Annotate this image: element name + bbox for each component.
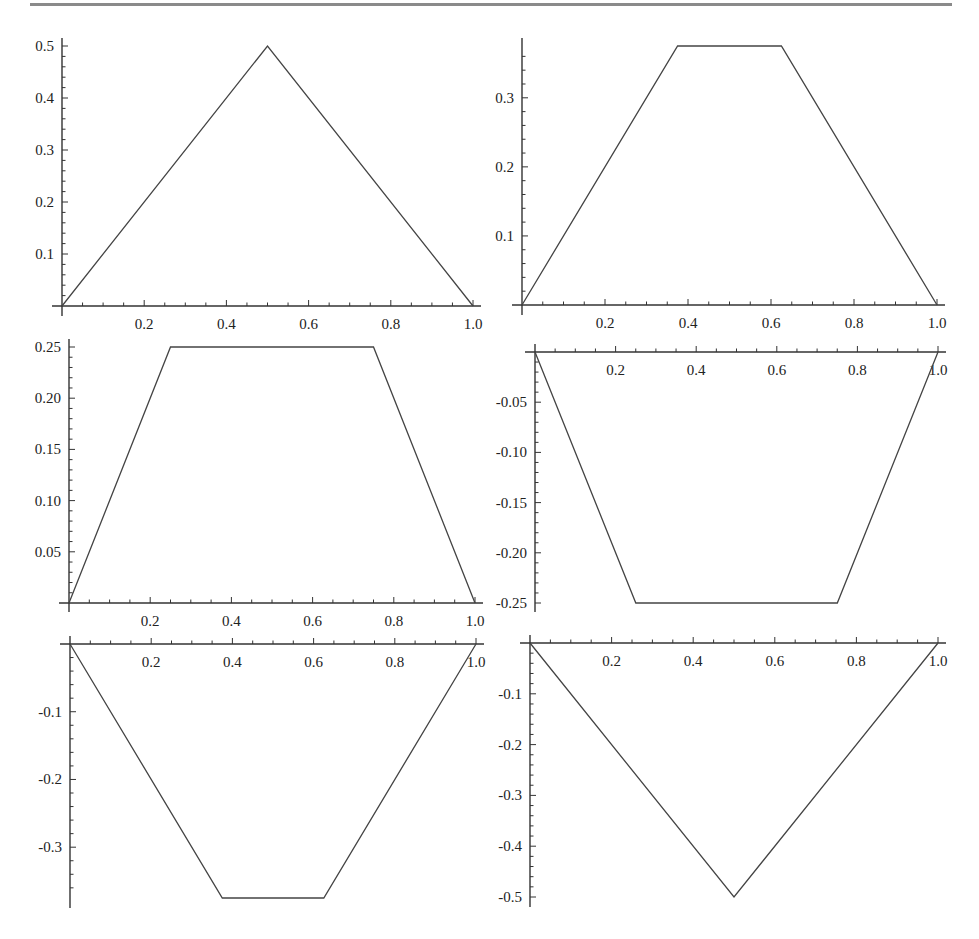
y-tick-label: -0.5 — [498, 889, 522, 905]
y-tick-label: 0.10 — [35, 493, 61, 509]
x-tick-label: 1.0 — [928, 315, 947, 331]
y-tick-label: -0.05 — [496, 394, 527, 410]
y-tick-label: 0.2 — [495, 159, 514, 175]
x-tick-label: 0.4 — [223, 654, 242, 670]
y-tick-label: -0.20 — [496, 545, 527, 561]
y-tick-label: -0.2 — [498, 737, 522, 753]
x-tick-label: 1.0 — [467, 654, 486, 670]
data-line — [70, 644, 476, 898]
data-line — [530, 643, 938, 897]
x-tick-label: 0.8 — [845, 315, 864, 331]
y-tick-label: 0.25 — [35, 339, 61, 355]
x-tick-label: 0.2 — [596, 315, 615, 331]
x-tick-label: 0.6 — [299, 316, 318, 332]
x-tick-label: 0.6 — [765, 653, 784, 669]
plot-middle-right: 0.20.40.60.81.0-0.05-0.10-0.15-0.20-0.25 — [496, 344, 948, 612]
plot-bottom-right: 0.20.40.60.81.0-0.1-0.2-0.3-0.4-0.5 — [498, 635, 947, 907]
x-tick-label: 1.0 — [929, 653, 948, 669]
y-tick-label: 0.2 — [35, 194, 54, 210]
y-tick-label: 0.4 — [35, 90, 54, 106]
x-tick-label: 1.0 — [466, 613, 485, 629]
plot-bottom-left: 0.20.40.60.81.0-0.1-0.2-0.3 — [38, 636, 485, 908]
x-tick-label: 0.2 — [142, 654, 161, 670]
y-tick-label: -0.15 — [496, 495, 527, 511]
x-tick-label: 0.8 — [848, 362, 867, 378]
x-tick-label: 0.2 — [602, 653, 621, 669]
x-tick-label: 0.4 — [217, 316, 236, 332]
plot-middle-left: 0.20.40.60.81.00.050.100.150.200.25 — [35, 339, 485, 629]
x-tick-label: 0.2 — [606, 362, 625, 378]
y-tick-label: 0.05 — [35, 544, 61, 560]
plot-top-left: 0.20.40.60.81.00.10.20.30.40.5 — [35, 38, 482, 332]
y-tick-label: -0.10 — [496, 444, 527, 460]
x-tick-label: 0.6 — [767, 362, 786, 378]
x-tick-label: 0.8 — [381, 316, 400, 332]
y-tick-label: 0.5 — [35, 38, 54, 54]
data-line — [62, 46, 473, 306]
y-tick-label: 0.3 — [35, 142, 54, 158]
y-tick-label: 0.1 — [495, 228, 514, 244]
x-tick-label: 0.4 — [222, 613, 241, 629]
x-tick-label: 0.2 — [141, 613, 160, 629]
x-tick-label: 0.2 — [135, 316, 154, 332]
data-line — [535, 352, 938, 603]
x-tick-label: 0.6 — [762, 315, 781, 331]
x-tick-label: 0.4 — [684, 653, 703, 669]
plot-grid: 0.20.40.60.81.00.10.20.30.40.5 0.20.40.6… — [0, 0, 979, 939]
x-tick-label: 0.8 — [847, 653, 866, 669]
data-line — [69, 347, 475, 603]
x-tick-label: 0.8 — [385, 654, 404, 670]
data-line — [522, 46, 937, 305]
y-tick-label: -0.25 — [496, 595, 527, 611]
x-tick-label: 0.8 — [384, 613, 403, 629]
y-tick-label: 0.15 — [35, 441, 61, 457]
y-tick-label: -0.3 — [38, 839, 62, 855]
y-tick-label: 0.3 — [495, 90, 514, 106]
x-tick-label: 0.4 — [687, 362, 706, 378]
x-tick-label: 0.6 — [303, 613, 322, 629]
y-tick-label: -0.4 — [498, 838, 522, 854]
x-tick-label: 0.6 — [304, 654, 323, 670]
y-tick-label: -0.1 — [498, 686, 522, 702]
plot-top-right: 0.20.40.60.81.00.10.20.3 — [495, 38, 946, 331]
y-tick-label: 0.20 — [35, 390, 61, 406]
x-tick-label: 0.4 — [679, 315, 698, 331]
y-tick-label: -0.1 — [38, 704, 62, 720]
y-tick-label: -0.2 — [38, 771, 62, 787]
y-tick-label: -0.3 — [498, 787, 522, 803]
y-tick-label: 0.1 — [35, 246, 54, 262]
x-tick-label: 1.0 — [464, 316, 483, 332]
